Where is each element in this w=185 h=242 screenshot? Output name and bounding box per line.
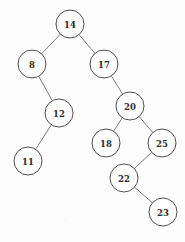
node-label-8: 8: [29, 60, 35, 70]
tree-edge-14-to-17: [79, 35, 95, 54]
tree-node-23[interactable]: 23: [149, 198, 177, 226]
node-label-23: 23: [157, 208, 169, 218]
tree-node-18[interactable]: 18: [92, 129, 120, 157]
tree-node-14[interactable]: 14: [56, 10, 84, 38]
tree-node-8[interactable]: 8: [18, 50, 46, 78]
tree-edge-20-to-25: [139, 117, 153, 133]
tree-edge-8-to-12: [39, 76, 52, 100]
tree-edge-14-to-8: [42, 34, 61, 54]
tree-diagram-svg: 1481712201118252223: [0, 0, 185, 242]
tree-node-12[interactable]: 12: [45, 99, 73, 127]
node-label-17: 17: [98, 60, 110, 70]
node-label-14: 14: [64, 20, 76, 30]
tree-node-22[interactable]: 22: [110, 164, 138, 192]
nodes-layer: 1481712201118252223: [14, 10, 177, 226]
tree-edge-17-to-20: [111, 76, 122, 94]
tree-node-25[interactable]: 25: [148, 129, 176, 157]
node-label-12: 12: [53, 109, 65, 119]
node-label-18: 18: [100, 139, 112, 149]
node-label-22: 22: [118, 174, 130, 184]
tree-edge-22-to-23: [135, 187, 153, 203]
tree-node-11[interactable]: 11: [14, 147, 42, 175]
tree-node-17[interactable]: 17: [90, 50, 118, 78]
tree-edge-12-to-11: [36, 125, 52, 149]
node-label-20: 20: [124, 102, 136, 112]
tree-diagram-canvas: 1481712201118252223: [0, 0, 185, 242]
node-label-11: 11: [22, 157, 34, 167]
node-label-25: 25: [156, 139, 168, 149]
tree-edge-20-to-18: [114, 118, 123, 132]
tree-node-20[interactable]: 20: [116, 92, 144, 120]
tree-edge-25-to-22: [134, 152, 151, 168]
